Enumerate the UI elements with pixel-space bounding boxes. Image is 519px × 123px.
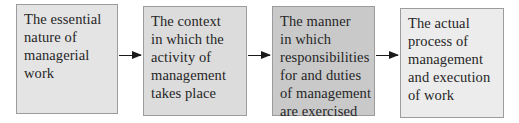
- box-text-line: managerial: [24, 46, 111, 64]
- box-text-line: management: [408, 50, 497, 68]
- box-text-line: The essential: [24, 10, 111, 28]
- box-text-line: for and duties: [280, 66, 368, 84]
- box-text-line: work: [24, 64, 111, 82]
- box-text-line: nature of: [24, 28, 111, 46]
- flow-box-actual-process: The actual process of management and exe…: [400, 8, 504, 118]
- box-text-line: of management: [280, 84, 368, 102]
- box-text-line: management: [151, 66, 240, 84]
- right-arrow-icon: [248, 55, 270, 56]
- right-arrow-icon: [376, 55, 398, 56]
- box-text-line: activity of: [151, 48, 240, 66]
- box-text-line: are exercised: [280, 102, 368, 120]
- box-text-line: in which the: [151, 30, 240, 48]
- flow-box-context: The context in which the activity of man…: [143, 6, 247, 116]
- box-text-line: The actual: [408, 14, 497, 32]
- box-text-line: in which: [280, 30, 368, 48]
- box-text-line: responsibilities: [280, 48, 368, 66]
- box-text-line: takes place: [151, 84, 240, 102]
- box-text-line: and execution: [408, 68, 497, 86]
- box-text-line: of work: [408, 86, 497, 104]
- box-text-line: The context: [151, 12, 240, 30]
- right-arrow-icon: [119, 55, 141, 56]
- flow-box-manner: The manner in which responsibilities for…: [272, 6, 375, 116]
- box-text-line: The manner: [280, 12, 368, 30]
- flow-box-essential-nature: The essential nature of managerial work: [16, 4, 118, 114]
- box-text-line: process of: [408, 32, 497, 50]
